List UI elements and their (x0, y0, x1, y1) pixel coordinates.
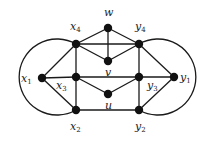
node-w (104, 24, 112, 32)
label-y2: y2 (134, 120, 146, 134)
node-u (104, 90, 112, 98)
label-y3: y3 (146, 79, 158, 93)
edge-y4-y1 (139, 44, 174, 77)
node-x4 (72, 40, 80, 48)
label-y4: y4 (134, 20, 146, 34)
edge-x3-u (76, 77, 108, 94)
label-w: w (104, 6, 114, 19)
edge-y4-v (108, 44, 139, 61)
graph-diagram: wx4y4vx1x3y3y1ux2y2 (0, 0, 217, 143)
label-x3: x3 (56, 79, 67, 93)
label-v: v (105, 66, 112, 79)
node-x2 (72, 106, 80, 114)
edge-x4-v (76, 44, 108, 61)
node-y4 (135, 40, 143, 48)
node-y2 (135, 106, 143, 114)
edge-y3-u (108, 77, 139, 94)
node-y1 (170, 73, 178, 81)
node-x3 (72, 73, 80, 81)
node-x1 (38, 74, 46, 82)
edge-x4-x1 (42, 44, 76, 78)
edge-w-x4 (76, 28, 108, 44)
node-y3 (135, 73, 143, 81)
label-x4: x4 (70, 20, 81, 34)
node-v (104, 57, 112, 65)
label-x2: x2 (70, 120, 81, 134)
edge-y2-y1 (139, 77, 174, 110)
label-u: u (105, 99, 112, 112)
label-x1: x1 (21, 72, 32, 86)
edge-x1-x3 (42, 77, 76, 78)
label-y1: y1 (179, 71, 191, 85)
